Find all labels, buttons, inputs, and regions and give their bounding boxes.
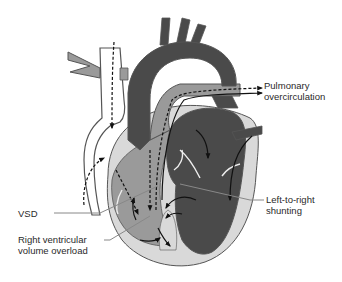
label-left-to-right-shunting: Left-to-right shunting (266, 194, 315, 216)
label-rv-volume-overload: Right ventricular volume overload (18, 234, 88, 256)
label-pulmonary-overcirculation: Pulmonary overcirculation (264, 80, 325, 102)
label-vsd: VSD (18, 208, 38, 219)
